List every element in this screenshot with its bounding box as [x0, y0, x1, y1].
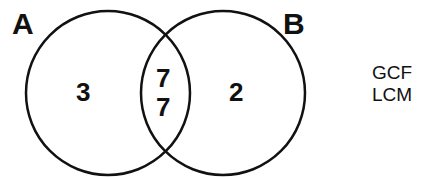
lcm-label: LCM [372, 84, 412, 105]
set-label-a: A [12, 7, 34, 40]
intersection-value-2: 7 [156, 92, 170, 122]
venn-diagram: A B 3 7 7 2 GCF LCM [0, 0, 422, 177]
region-b-only-value: 2 [229, 77, 243, 107]
intersection-value-1: 7 [156, 63, 170, 93]
set-label-b: B [283, 7, 305, 40]
gcf-label: GCF [372, 62, 412, 83]
region-a-only-value: 3 [76, 77, 90, 107]
